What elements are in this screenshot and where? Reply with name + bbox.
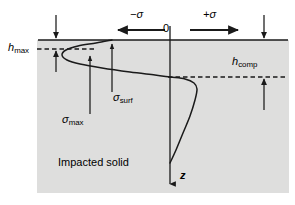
positive-sigma-label: +σ xyxy=(203,9,216,20)
sigma-max-label-subscript: max xyxy=(69,118,84,127)
hcomp-label: hcomp xyxy=(232,56,257,69)
hcomp-label-subscript: comp xyxy=(238,60,257,69)
impacted-solid-label: Impacted solid xyxy=(58,157,129,168)
z-axis-label: z xyxy=(180,170,186,181)
negative-sigma-label: −σ xyxy=(130,9,143,20)
diagram-canvas xyxy=(0,0,295,205)
sigma-max-label: σmax xyxy=(62,114,84,127)
origin-label: 0 xyxy=(163,23,169,34)
sigma-surf-label: σsurf xyxy=(113,92,133,105)
sigma-surf-label-base: σ xyxy=(113,91,120,103)
sigma-surf-label-subscript: surf xyxy=(120,96,133,105)
impact-stress-diagram: hmax hcomp −σ +σ 0 z σsurf σmax Impacted… xyxy=(0,0,295,205)
hmax-label: hmax xyxy=(8,42,29,55)
hmax-label-subscript: max xyxy=(14,46,29,55)
sigma-max-label-base: σ xyxy=(62,113,69,125)
